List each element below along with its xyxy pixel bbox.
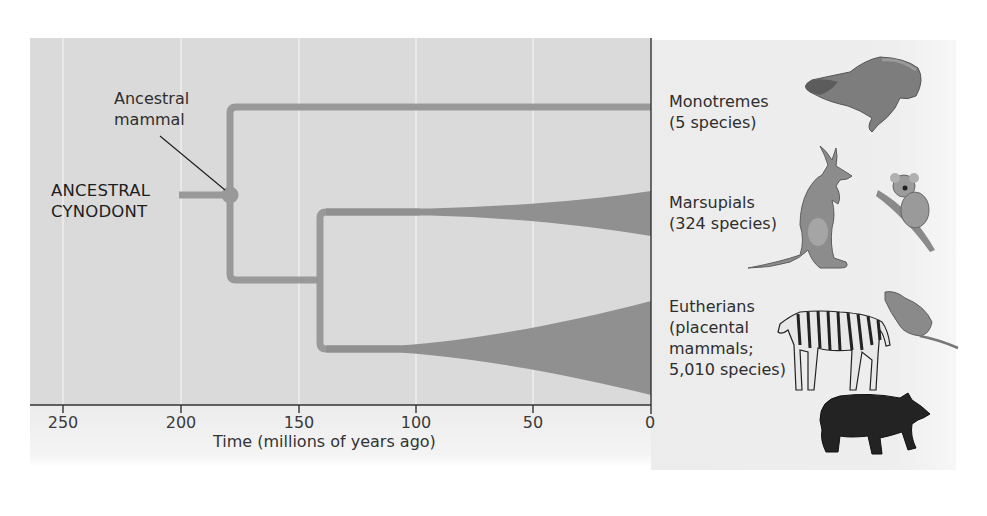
ancestral-mammal-label: Ancestral mammal bbox=[114, 88, 189, 130]
bear-illustration bbox=[820, 393, 930, 454]
tick-label-150: 150 bbox=[284, 413, 315, 432]
tick-label-100: 100 bbox=[401, 413, 432, 432]
tick-label-0: 0 bbox=[645, 413, 655, 432]
koala-illustration bbox=[876, 173, 935, 252]
x-axis-title: Time (millions of years ago) bbox=[213, 432, 436, 451]
tick-label-250: 250 bbox=[48, 413, 79, 432]
eutherians-label: Eutherians (placental mammals; 5,010 spe… bbox=[669, 296, 786, 380]
tick-label-200: 200 bbox=[166, 413, 197, 432]
tick-label-50: 50 bbox=[523, 413, 543, 432]
phylogeny-diagram bbox=[0, 0, 987, 516]
ancestral-cynodont-label: ANCESTRAL CYNODONT bbox=[51, 180, 150, 222]
monotremes-label: Monotremes (5 species) bbox=[669, 91, 769, 133]
x-axis-ticks bbox=[63, 405, 533, 413]
zebra-illustration bbox=[778, 311, 890, 390]
platypus-illustration bbox=[805, 57, 921, 132]
marsupials-label: Marsupials (324 species) bbox=[669, 192, 777, 234]
shrew-illustration bbox=[885, 292, 958, 348]
